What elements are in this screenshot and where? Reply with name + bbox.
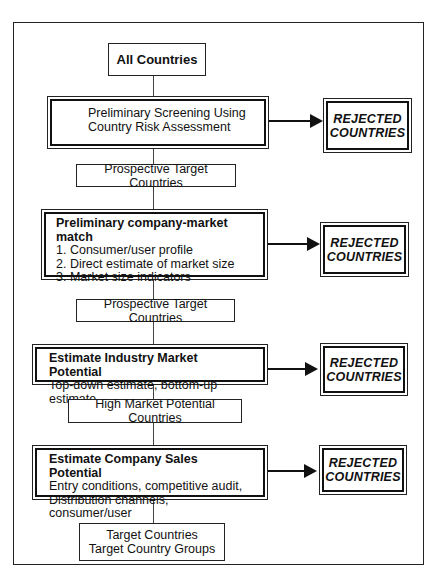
rejected-label-2: REJECTED xyxy=(330,236,398,250)
connector-line xyxy=(153,76,154,96)
connector-line xyxy=(153,423,154,445)
connector-line xyxy=(153,187,154,209)
reject-arrow-3 xyxy=(268,368,309,370)
output-box-1: Prospective Target Countries xyxy=(76,164,236,187)
rejected-label-2b: COUNTRIES xyxy=(327,250,402,264)
rejected-label-4: REJECTED xyxy=(329,456,397,470)
step-1-title: Preliminary Screening Using xyxy=(88,106,264,120)
step-2-title: Preliminary company-market match xyxy=(56,217,253,244)
output-box-2: Prospective Target Countries xyxy=(76,299,235,322)
step-1-line: Country Risk Assessment xyxy=(88,120,264,134)
step-3-title: Estimate Industry Market Potential xyxy=(49,352,251,379)
all-countries-box: All Countries xyxy=(108,43,206,76)
step-4-title: Estimate Company Sales Potential xyxy=(49,453,251,480)
arrowhead-icon xyxy=(304,464,317,478)
reject-arrow-4 xyxy=(268,470,308,472)
output-label-2: Prospective Target Countries xyxy=(77,297,234,325)
arrowhead-icon xyxy=(305,362,318,376)
step-2-box: Preliminary company-market match 1. Cons… xyxy=(41,209,268,280)
rejected-box-4: REJECTED COUNTRIES xyxy=(319,445,407,495)
reject-arrow-1 xyxy=(269,120,314,122)
rejected-box-2: REJECTED COUNTRIES xyxy=(320,222,409,277)
rejected-label-3b: COUNTRIES xyxy=(326,370,401,384)
all-countries-label: All Countries xyxy=(117,52,198,67)
output-box-3: High Market Potential Countries xyxy=(68,399,242,423)
final-output-box: Target Countries Target Country Groups xyxy=(79,523,225,561)
output-label-3: High Market Potential Countries xyxy=(69,397,241,425)
rejected-label-4b: COUNTRIES xyxy=(325,470,400,484)
connector-line xyxy=(153,322,154,344)
step-4-line-1: Entry conditions, competitive audit, xyxy=(49,480,251,494)
step-2-line-3: 3. Market size indicators xyxy=(56,271,253,285)
step-4-line-2: Distribution channels, consumer/user xyxy=(49,494,251,521)
rejected-label-1: REJECTED xyxy=(333,112,401,126)
rejected-label-3: REJECTED xyxy=(330,356,398,370)
final-output-line-2: Target Country Groups xyxy=(89,542,215,556)
step-4-box: Estimate Company Sales Potential Entry c… xyxy=(32,445,268,500)
arrowhead-icon xyxy=(310,114,323,128)
output-label-1: Prospective Target Countries xyxy=(77,162,235,190)
step-3-box: Estimate Industry Market Potential Top-d… xyxy=(32,344,268,385)
arrowhead-icon xyxy=(307,237,320,251)
step-1-box: Preliminary Screening Using Country Risk… xyxy=(47,96,269,149)
rejected-box-3: REJECTED COUNTRIES xyxy=(320,343,408,396)
rejected-box-1: REJECTED COUNTRIES xyxy=(323,98,412,153)
reject-arrow-2 xyxy=(268,243,311,245)
final-output-line-1: Target Countries xyxy=(106,528,198,542)
step-2-line-2: 2. Direct estimate of market size xyxy=(56,258,253,272)
rejected-label-1b: COUNTRIES xyxy=(330,126,405,140)
step-2-line-1: 1. Consumer/user profile xyxy=(56,244,253,258)
